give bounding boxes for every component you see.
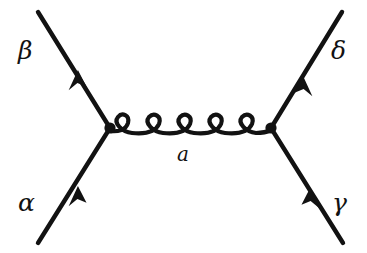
left-vertex-dot xyxy=(104,122,115,133)
gamma-line xyxy=(271,128,343,243)
label-alpha: α xyxy=(18,190,35,215)
label-beta: β xyxy=(18,38,32,63)
gluon-spring-path xyxy=(110,115,271,134)
right-vertex-dot xyxy=(265,122,276,133)
feynman-diagram-figure: β α δ γ a xyxy=(0,0,367,253)
delta-line xyxy=(271,12,342,128)
direction-arrowheads xyxy=(68,70,320,209)
fermion-lines xyxy=(38,12,343,243)
alpha-line xyxy=(38,128,110,243)
beta-line xyxy=(38,12,110,128)
label-delta: δ xyxy=(331,38,346,63)
label-gamma: γ xyxy=(332,190,347,215)
gluon-propagator xyxy=(110,115,271,134)
diagram-canvas xyxy=(0,0,367,253)
label-propagator-a: a xyxy=(177,144,189,164)
